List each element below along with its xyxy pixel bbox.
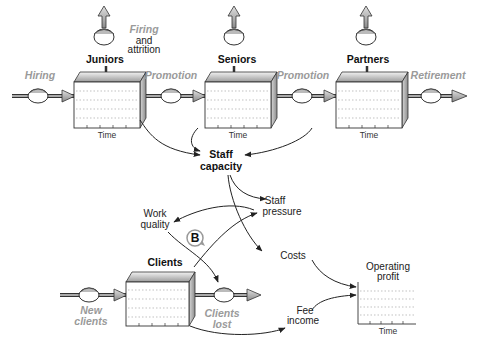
variable-work-quality: Work	[143, 208, 167, 219]
axis-label-time: Time	[229, 130, 248, 140]
valve-firing-icon	[94, 6, 114, 45]
stock-seniors	[205, 66, 277, 128]
valve-partner-exit-icon	[356, 6, 376, 45]
stock-label-partners: Partners	[347, 53, 390, 65]
flow-label-promotion-1: Promotion	[145, 69, 198, 81]
flow-label-firing-attrition: attrition	[128, 44, 161, 55]
stock-juniors	[74, 66, 146, 128]
valve-senior-exit-icon	[224, 6, 244, 45]
stock-partners	[336, 66, 408, 128]
flow-label-firing: Firing	[129, 23, 159, 35]
variable-fee-income-line2: income	[287, 315, 320, 326]
flow-label-new-clients-line2: clients	[74, 315, 107, 327]
flow-label-hiring: Hiring	[25, 69, 56, 81]
valve-promotion-1-icon	[161, 89, 181, 103]
valve-hiring-icon	[28, 89, 48, 103]
valve-new-clients-icon	[79, 288, 99, 302]
stock-label-juniors: Juniors	[86, 53, 124, 65]
flow-label-clients-lost-line2: lost	[213, 318, 232, 330]
variable-staff-capacity: Staff	[209, 148, 233, 160]
valve-promotion-2-icon	[292, 89, 312, 103]
stock-label-clients: Clients	[147, 256, 182, 268]
loop-label: B	[191, 231, 200, 245]
flow-arrowhead	[324, 90, 337, 102]
variable-staff-pressure: Staff	[265, 195, 286, 206]
stock-label-seniors: Seniors	[218, 53, 257, 65]
stock-clients	[126, 272, 195, 326]
chart-title-operating-profit-line2: profit	[377, 271, 399, 282]
axis-label-time: Time	[379, 326, 398, 336]
flow-arrowhead	[62, 90, 75, 102]
variable-work-quality-line2: quality	[141, 219, 170, 230]
axis-label-time: Time	[98, 130, 117, 140]
axis-label-time: Time	[360, 130, 379, 140]
flow-arrowhead	[247, 289, 261, 301]
flow-arrowhead	[193, 90, 206, 102]
operating-profit-chart	[358, 282, 416, 324]
flow-arrowhead	[114, 289, 127, 301]
variable-costs: Costs	[280, 250, 306, 261]
valve-clients-lost-icon	[214, 288, 234, 302]
variable-staff-pressure-line2: pressure	[263, 206, 302, 217]
valve-retirement-icon	[421, 89, 441, 103]
variable-staff-capacity-line2: capacity	[200, 160, 242, 172]
flow-arrowhead	[452, 90, 467, 102]
flow-label-promotion-2: Promotion	[277, 69, 330, 81]
flow-label-retirement: Retirement	[411, 69, 466, 81]
stock-flow-diagram: Juniors Seniors Partners Firing and attr…	[0, 0, 487, 346]
